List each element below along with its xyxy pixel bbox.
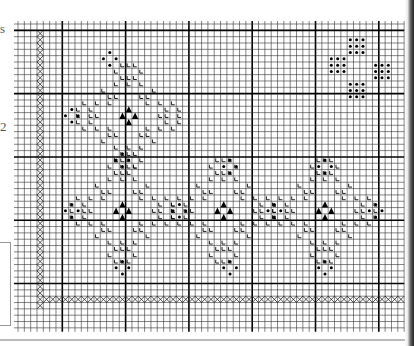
cross-stitch-icon [37, 277, 43, 283]
half-stitch-icon [108, 133, 111, 136]
half-stitch-icon [298, 234, 301, 237]
half-stitch-icon [203, 196, 206, 199]
dot-icon [108, 64, 111, 67]
half-stitch-icon [146, 234, 149, 237]
dot-icon [324, 273, 327, 276]
half-stitch-icon [108, 190, 111, 193]
cross-stitch-icon [240, 296, 246, 302]
cross-stitch-icon [37, 214, 43, 220]
cross-stitch-icon [233, 296, 239, 302]
half-stitch-icon [133, 228, 136, 231]
half-stitch-icon [311, 165, 314, 168]
cross-stitch-icon [278, 296, 284, 302]
half-stitch-icon [152, 196, 155, 199]
cross-stitch-icon [385, 296, 391, 302]
cross-stitch-icon [398, 296, 404, 302]
dot-icon [361, 83, 364, 86]
half-stitch-icon [304, 222, 307, 225]
half-stitch-icon [285, 209, 288, 212]
dot-icon [349, 89, 352, 92]
cross-stitch-icon [37, 170, 43, 176]
half-stitch-icon [127, 260, 130, 263]
bottom-rule [0, 339, 414, 341]
half-stitch-icon [140, 146, 143, 149]
cross-stitch-icon [366, 296, 372, 302]
half-stitch-icon [133, 165, 136, 168]
half-stitch-icon [361, 203, 364, 206]
half-stitch-icon [133, 63, 136, 66]
cross-stitch-icon [284, 296, 290, 302]
half-stitch-icon [336, 190, 339, 193]
half-stitch-icon [146, 133, 149, 136]
dot-icon [324, 159, 327, 162]
half-stitch-icon [209, 253, 212, 256]
half-stitch-icon [165, 114, 168, 117]
dot-icon [342, 70, 345, 73]
dot-icon [77, 209, 80, 212]
dot-icon [330, 57, 333, 60]
half-stitch-icon [216, 171, 219, 174]
cross-stitch-icon [183, 296, 189, 302]
dot-icon [229, 171, 232, 174]
cross-stitch-icon [37, 157, 43, 163]
cross-stitch-icon [37, 296, 43, 302]
half-stitch-icon [209, 190, 212, 193]
half-stitch-icon [95, 127, 98, 130]
half-stitch-icon [76, 196, 79, 199]
half-stitch-icon [152, 139, 155, 142]
triangle-icon [126, 208, 132, 214]
dot-icon [330, 64, 333, 67]
dot-icon [368, 209, 371, 212]
cross-stitch-icon [50, 296, 56, 302]
half-stitch-icon [266, 222, 269, 225]
dot-icon [324, 260, 327, 263]
cross-stitch-icon [157, 296, 163, 302]
half-stitch-icon [235, 228, 238, 231]
half-stitch-icon [279, 196, 282, 199]
dot-icon [355, 89, 358, 92]
triangle-icon [322, 201, 328, 207]
dot-icon [374, 64, 377, 67]
half-stitch-icon [133, 152, 136, 155]
cross-stitch-icon [316, 296, 322, 302]
half-stitch-icon [342, 196, 345, 199]
cross-stitch-icon [290, 296, 296, 302]
half-stitch-icon [108, 253, 111, 256]
half-stitch-icon [121, 63, 124, 66]
cross-stitch-icon [347, 296, 353, 302]
cross-stitch-icon [37, 138, 43, 144]
half-stitch-icon [311, 177, 314, 180]
half-stitch-icon [83, 203, 86, 206]
half-stitch-icon [83, 209, 86, 212]
half-stitch-icon [222, 247, 225, 250]
half-stitch-icon [140, 222, 143, 225]
cross-stitch-icon [322, 296, 328, 302]
cross-stitch-icon [113, 296, 119, 302]
dot-icon [317, 165, 320, 168]
dot-icon [361, 95, 364, 98]
half-stitch-icon [159, 114, 162, 117]
half-stitch-icon [114, 260, 117, 263]
dot-icon [64, 114, 67, 117]
half-stitch-icon [311, 190, 314, 193]
half-stitch-icon [102, 190, 105, 193]
half-stitch-icon [114, 146, 117, 149]
half-stitch-icon [311, 228, 314, 231]
cross-stitch-icon [37, 195, 43, 201]
half-stitch-icon [184, 215, 187, 218]
half-stitch-icon [317, 171, 320, 174]
half-stitch-icon [178, 196, 181, 199]
half-stitch-icon [178, 114, 181, 117]
half-stitch-icon [178, 120, 181, 123]
dot-icon [102, 57, 105, 60]
dot-icon [361, 38, 364, 41]
dot-icon [70, 108, 73, 111]
cross-stitch-icon [62, 296, 68, 302]
cross-stitch-icon [37, 151, 43, 157]
half-stitch-icon [178, 108, 181, 111]
cross-stitch-icon [252, 296, 258, 302]
cross-stitch-icon [37, 290, 43, 296]
cross-stitch-icon [37, 119, 43, 125]
dot-icon [127, 159, 130, 162]
cross-stitch-icon [341, 296, 347, 302]
